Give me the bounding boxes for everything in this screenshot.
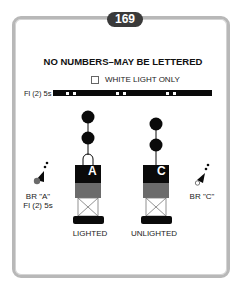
flash-mark: [116, 92, 119, 95]
legend-label: WHITE LIGHT ONLY: [105, 75, 180, 84]
white-square-icon: [91, 76, 99, 84]
diagram-title: NO NUMBERS–MAY BE LETTERED: [0, 56, 246, 67]
flash-mark: [166, 92, 169, 95]
legend: WHITE LIGHT ONLY: [91, 75, 180, 84]
chart-symbol-lighted-buoy-icon: [32, 160, 52, 188]
lighted-label: LIGHTED: [68, 229, 112, 238]
buoy-letter-label: C: [157, 167, 166, 176]
light-characteristic-bar: [53, 90, 212, 96]
flash-mark: [66, 92, 69, 95]
flash-mark: [73, 92, 76, 95]
flash-mark: [123, 92, 126, 95]
light-characteristic-label: Fl (2) 5s: [24, 89, 52, 98]
topmark-spheres-icon: [82, 111, 95, 156]
page-number-badge: 169: [107, 12, 143, 27]
flash-mark: [173, 92, 176, 95]
buoy-letter-label: A: [88, 167, 97, 176]
unlighted-label: UNLIGHTED: [130, 229, 178, 238]
chart-symbol-a-line2: Fl (2) 5s: [20, 201, 56, 210]
chart-symbol-a-line1: BR "A": [20, 192, 56, 201]
chart-symbol-unlighted-buoy-icon: [192, 162, 212, 190]
topmark-spheres-icon: [150, 118, 163, 166]
chart-symbol-c-line1: BR "C": [184, 192, 220, 201]
lighted-buoy-figure: [70, 100, 110, 225]
